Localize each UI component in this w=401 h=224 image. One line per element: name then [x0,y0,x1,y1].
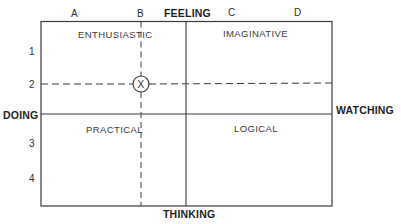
row-label-2: 2 [29,80,35,90]
quadrant-label-enthusiastic: ENTHUSIASTIC [78,30,152,40]
column-label-a: A [71,9,78,19]
column-label-d: D [294,8,301,18]
column-label-b: B [137,9,144,19]
row-label-4: 4 [29,174,35,184]
column-label-c: C [228,8,235,18]
row-label-1: 1 [29,47,35,57]
axis-label-doing: DOING [3,110,38,121]
axis-label-watching: WATCHING [336,105,394,116]
quadrant-label-imaginative: IMAGINATIVE [223,29,288,39]
axis-label-feeling: FEELING [164,8,211,19]
axis-label-thinking: THINKING [163,209,215,220]
marker-label: X [138,80,145,90]
dashed-row-2-line-right [149,83,334,84]
quadrant-label-practical: PRACTICAL [86,125,143,135]
row-label-3: 3 [29,139,35,149]
quadrant-label-logical: LOGICAL [234,124,278,134]
learning-style-grid: FEELING THINKING DOING WATCHING A B C D … [0,0,401,224]
